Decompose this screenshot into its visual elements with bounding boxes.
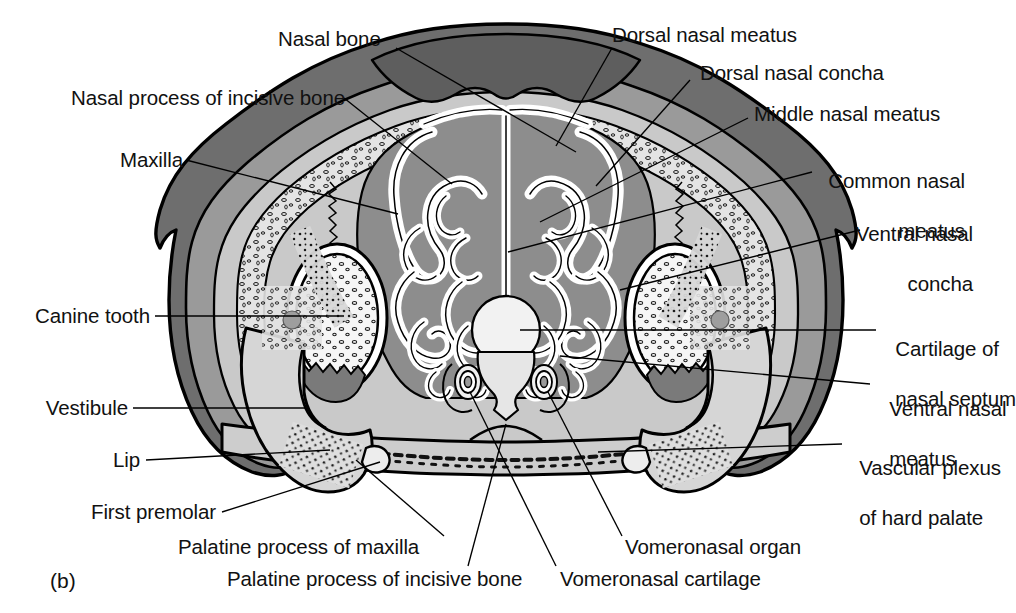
label-dorsal-nasal-concha: Dorsal nasal concha bbox=[700, 60, 884, 85]
dorsal-skin-band bbox=[372, 34, 640, 102]
label-dorsal-nasal-meatus: Dorsal nasal meatus bbox=[612, 22, 797, 47]
label-ventral-nasal-concha-line2: concha bbox=[907, 272, 973, 295]
label-lip: Lip bbox=[60, 447, 140, 472]
label-vascular-plexus-line1: Vascular plexus bbox=[859, 456, 1001, 479]
labial-gland-nodule-left bbox=[283, 311, 301, 329]
vomeronasal-organ-right bbox=[531, 365, 557, 399]
label-common-nasal-meatus-line1: Common nasal bbox=[828, 169, 965, 192]
label-nasal-bone: Nasal bone bbox=[278, 26, 381, 51]
label-cartilage-of-nasal-septum-line1: Cartilage of bbox=[895, 337, 999, 360]
label-vascular-plexus-line2: of hard palate bbox=[859, 506, 983, 529]
label-palatine-process-of-incisive-bone: Palatine process of incisive bone bbox=[227, 566, 522, 591]
label-ventral-nasal-concha: Ventral nasal concha bbox=[760, 196, 973, 296]
vomeronasal-organ-left bbox=[455, 365, 481, 399]
label-maxilla: Maxilla bbox=[40, 147, 183, 172]
label-canine-tooth: Canine tooth bbox=[10, 303, 150, 328]
label-nasal-process-of-incisive-bone: Nasal process of incisive bone bbox=[40, 85, 345, 110]
label-vestibule: Vestibule bbox=[20, 395, 128, 420]
label-middle-nasal-meatus: Middle nasal meatus bbox=[754, 101, 940, 126]
label-vomeronasal-cartilage: Vomeronasal cartilage bbox=[560, 566, 761, 591]
label-first-premolar: First premolar bbox=[40, 499, 216, 524]
label-ventral-nasal-concha-line1: Ventral nasal bbox=[856, 222, 973, 245]
label-vomeronasal-organ: Vomeronasal organ bbox=[625, 534, 801, 559]
label-vascular-plexus-of-hard-palate: Vascular plexus of hard palate bbox=[848, 430, 1001, 530]
label-ventral-nasal-meatus-line1: Ventral nasal bbox=[889, 397, 1006, 420]
labial-gland-nodule-right bbox=[711, 311, 729, 329]
panel-identifier: (b) bbox=[50, 569, 76, 593]
label-palatine-process-of-maxilla: Palatine process of maxilla bbox=[178, 534, 419, 559]
